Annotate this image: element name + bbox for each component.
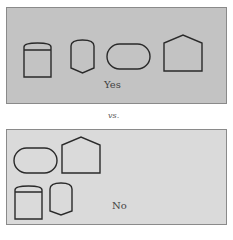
cylinder-shape-bottom xyxy=(15,186,42,219)
vs-label: vs. xyxy=(108,111,119,120)
stadium-shape-bottom xyxy=(14,148,57,173)
shield-shape-bottom xyxy=(50,183,72,215)
shield-shape-top xyxy=(71,40,94,73)
stadium-shape-top xyxy=(107,44,150,69)
cylinder-shape-top xyxy=(24,43,51,77)
pentagon-shape-top xyxy=(164,35,202,71)
pentagon-shape-bottom xyxy=(62,137,100,173)
no-label: No xyxy=(112,200,127,211)
yes-label: Yes xyxy=(104,79,121,90)
